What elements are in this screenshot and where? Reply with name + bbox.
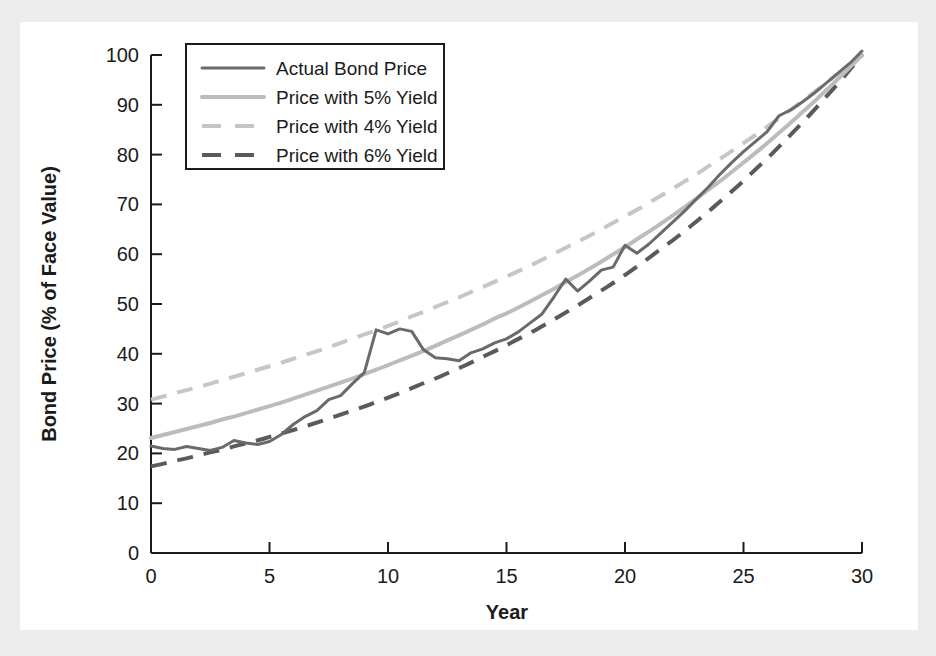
y-tick-label: 50 <box>117 293 139 315</box>
x-axis-ticks: 051015202530 <box>145 542 873 587</box>
y-axis-ticks: 0102030405060708090100 <box>106 44 162 564</box>
y-tick-label: 20 <box>117 442 139 464</box>
chart-figure: 0102030405060708090100 051015202530 Bond… <box>20 22 918 630</box>
y-axis-title: Bond Price (% of Face Value) <box>38 166 60 442</box>
y-tick-label: 0 <box>128 542 139 564</box>
x-axis-title: Year <box>486 601 528 623</box>
bond-price-line-chart: 0102030405060708090100 051015202530 Bond… <box>20 22 918 630</box>
y-tick-label: 10 <box>117 492 139 514</box>
x-tick-label: 10 <box>377 565 399 587</box>
legend-label: Price with 5% Yield <box>276 87 438 108</box>
x-tick-label: 5 <box>264 565 275 587</box>
x-tick-label: 25 <box>732 565 754 587</box>
y-tick-label: 30 <box>117 393 139 415</box>
chart-page: 0102030405060708090100 051015202530 Bond… <box>0 0 936 656</box>
legend-label: Price with 6% Yield <box>276 145 438 166</box>
y-tick-label: 100 <box>106 44 139 66</box>
x-tick-label: 20 <box>614 565 636 587</box>
y-tick-label: 60 <box>117 243 139 265</box>
legend-label: Price with 4% Yield <box>276 116 438 137</box>
x-tick-label: 0 <box>145 565 156 587</box>
x-tick-label: 15 <box>495 565 517 587</box>
legend-label: Actual Bond Price <box>276 58 427 79</box>
legend: Actual Bond PricePrice with 5% YieldPric… <box>186 44 444 169</box>
x-tick-label: 30 <box>851 565 873 587</box>
y-tick-label: 70 <box>117 193 139 215</box>
y-tick-label: 40 <box>117 343 139 365</box>
y-tick-label: 80 <box>117 144 139 166</box>
y-tick-label: 90 <box>117 94 139 116</box>
